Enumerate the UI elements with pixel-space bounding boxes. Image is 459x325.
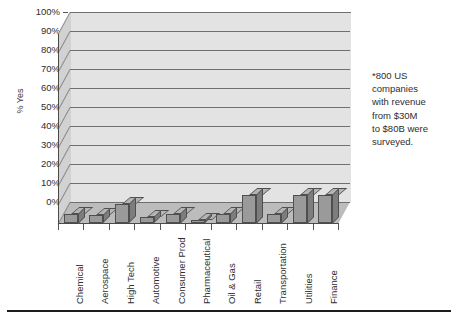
bar-chart-figure: % Yes 0%10%20%30%40%50%60%70%80%90%100% … <box>0 0 459 325</box>
bar-front-face <box>140 217 154 223</box>
plot-area <box>58 12 350 224</box>
x-category-label: Oil & Gas <box>227 263 237 304</box>
bar <box>267 214 281 224</box>
bar-side-face <box>256 188 263 224</box>
x-category-label: Automotive <box>151 256 161 304</box>
bar-front-face <box>242 195 256 224</box>
bar <box>242 195 256 224</box>
x-category-label: High Tech <box>126 262 136 304</box>
note-line-2: companies <box>372 83 418 94</box>
x-tick-mark <box>236 224 237 230</box>
x-category-label: Finance <box>329 270 339 304</box>
x-axis-tick-marks <box>58 224 350 232</box>
bar <box>191 220 205 223</box>
bar <box>89 215 103 223</box>
bar-front-face <box>318 195 332 224</box>
bar-front-face <box>166 214 180 224</box>
footer-divider <box>7 310 451 312</box>
x-category-label: Chemical <box>75 264 85 304</box>
x-tick-mark <box>185 224 186 230</box>
survey-note-annotation: *800 US companies with revenue from $30M… <box>372 69 456 148</box>
x-tick-mark <box>262 224 263 230</box>
note-line-6: surveyed. <box>372 136 413 147</box>
x-tick-mark <box>313 224 314 230</box>
note-line-5: to $80B were <box>372 123 428 134</box>
y-tick-label: 100% <box>36 7 60 17</box>
bar-front-face <box>115 204 129 223</box>
bar <box>293 195 307 224</box>
bars-layer <box>58 12 350 224</box>
x-category-label: Utilities <box>304 273 314 304</box>
x-category-label: Consumer Prod <box>177 237 187 304</box>
x-tick-mark <box>211 224 212 230</box>
note-line-1: *800 US <box>372 70 407 81</box>
x-tick-mark <box>109 224 110 230</box>
note-line-4: from $30M <box>372 110 417 121</box>
x-axis-category-labels: ChemicalAerospaceHigh TechAutomotiveCons… <box>0 232 459 312</box>
x-tick-mark <box>83 224 84 230</box>
x-tick-mark <box>338 224 339 230</box>
bar <box>140 217 154 223</box>
x-category-label: Retail <box>253 280 263 304</box>
x-category-label: Aerospace <box>100 259 110 304</box>
bar <box>115 204 129 223</box>
x-tick-mark <box>134 224 135 230</box>
bar-front-face <box>89 215 103 223</box>
bar-front-face <box>216 214 230 224</box>
bar-front-face <box>267 214 281 224</box>
bar <box>216 214 230 224</box>
x-tick-mark <box>58 224 59 230</box>
y-axis-title: % Yes <box>15 61 25 141</box>
bar <box>166 214 180 224</box>
bar-front-face <box>191 220 205 223</box>
bar-front-face <box>293 195 307 224</box>
bar-front-face <box>64 214 78 224</box>
x-category-label: Pharmaceutical <box>202 239 212 304</box>
bar-side-face <box>307 188 314 224</box>
bar <box>318 195 332 224</box>
bar <box>64 214 78 224</box>
x-tick-mark <box>287 224 288 230</box>
bar-side-face <box>332 188 339 224</box>
note-line-3: with revenue <box>372 96 426 107</box>
x-category-label: Transportation <box>278 243 288 304</box>
x-tick-mark <box>160 224 161 230</box>
